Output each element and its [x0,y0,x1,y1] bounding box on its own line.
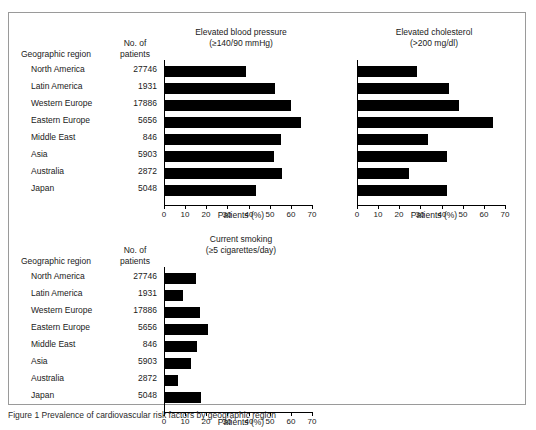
row-value-patients: 5048 [109,183,157,193]
row-value-patients: 17886 [109,98,157,108]
bar [165,324,208,335]
row-label-region: Japan [31,183,54,193]
bar [165,290,183,301]
bar [358,117,493,128]
chart-panel-smoking: Current smoking (≥5 cigarettes/day) 0102… [161,234,321,430]
bar [165,66,246,77]
row-value-patients: 846 [109,339,157,349]
chart-subtitle-smoking: (≥5 cigarettes/day) [155,245,327,256]
row-label-region: Middle East [31,132,75,142]
x-axis-tick [270,206,271,209]
plot-area-blood-pressure: 010203040506070 [164,60,312,205]
x-axis-tick [505,206,506,209]
x-axis-tick [206,206,207,209]
bar [358,83,449,94]
chart-panel-cholesterol: Elevated cholesterol (>200 mg/dl) 010203… [349,27,519,223]
row-value-patients: 2872 [109,166,157,176]
column-header-patients-line2: patients [113,49,157,59]
plot-area-smoking: 010203040506070 [164,267,312,412]
x-axis-tick [442,206,443,209]
row-label-region: North America [31,271,85,281]
row-value-patients: 5903 [109,356,157,366]
column-header-patients-line1: No. of [113,245,157,255]
x-axis-tick [185,206,186,209]
bar [165,375,178,386]
bar [165,273,196,284]
x-axis-tick [164,206,165,209]
chart-panel-blood-pressure: Elevated blood pressure (≥140/90 mmHg) 0… [161,27,321,223]
bar [358,100,459,111]
y-axis-line [164,60,165,205]
x-axis-tick [312,206,313,209]
row-label-region: Asia [31,356,48,366]
bar [165,185,256,196]
bar [358,151,447,162]
y-axis-line [164,267,165,412]
row-value-patients: 1931 [109,288,157,298]
row-label-region: Australia [31,166,64,176]
row-label-region: Eastern Europe [31,322,90,332]
x-axis-tick [249,206,250,209]
row-label-region: Australia [31,373,64,383]
column-header-region: Geographic region [21,49,91,59]
row-value-patients: 5656 [109,322,157,332]
x-axis-label-cholesterol: Patients (%) [349,210,519,220]
bar [358,134,428,145]
row-label-region: Middle East [31,339,75,349]
x-axis-tick [227,206,228,209]
bar [165,341,197,352]
chart-title-blood-pressure: Elevated blood pressure [155,27,327,38]
row-value-patients: 1931 [109,81,157,91]
row-label-region: Latin America [31,81,83,91]
column-header-region: Geographic region [21,256,91,266]
bar [358,168,409,179]
row-value-patients: 27746 [109,64,157,74]
bar [165,117,301,128]
bar [165,307,200,318]
bar [165,83,275,94]
row-value-patients: 846 [109,132,157,142]
x-axis-tick [357,206,358,209]
bar [165,358,191,369]
column-header-patients-line1: No. of [113,38,157,48]
x-axis-tick [484,206,485,209]
row-label-region: Latin America [31,288,83,298]
bar [165,392,201,403]
row-label-region: Western Europe [31,98,92,108]
bar [165,151,274,162]
row-value-patients: 5656 [109,115,157,125]
row-value-patients: 5048 [109,390,157,400]
row-label-region: Japan [31,390,54,400]
row-value-patients: 27746 [109,271,157,281]
bar [165,168,282,179]
x-axis-tick [291,206,292,209]
bar [358,185,447,196]
row-label-region: Western Europe [31,305,92,315]
chart-title-cholesterol: Elevated cholesterol [349,27,519,38]
y-axis-line [357,60,358,205]
chart-subtitle-blood-pressure: (≥140/90 mmHg) [155,38,327,49]
chart-title-smoking: Current smoking [155,234,327,245]
row-value-patients: 17886 [109,305,157,315]
bar [358,66,417,77]
figure-caption: Figure 1 Prevalence of cardiovascular ri… [8,410,528,422]
chart-subtitle-cholesterol: (>200 mg/dl) [349,38,519,49]
bar [165,100,291,111]
x-axis-tick [399,206,400,209]
row-value-patients: 2872 [109,373,157,383]
x-axis-tick [378,206,379,209]
figure-frame: Geographic region No. of patients North … [8,12,526,405]
plot-area-cholesterol: 010203040506070 [357,60,505,205]
row-label-region: Eastern Europe [31,115,90,125]
bar [165,134,281,145]
row-label-region: North America [31,64,85,74]
x-axis-tick [463,206,464,209]
x-axis-tick [420,206,421,209]
row-value-patients: 5903 [109,149,157,159]
x-axis-label-blood-pressure: Patients (%) [155,210,327,220]
column-header-patients-line2: patients [113,256,157,266]
row-label-region: Asia [31,149,48,159]
